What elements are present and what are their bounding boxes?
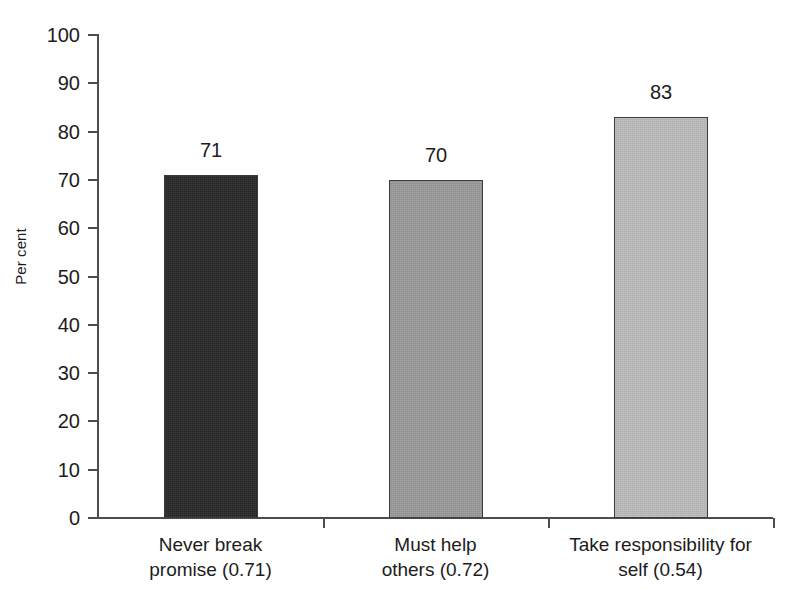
x-category-label-line: promise (0.71) [98, 557, 323, 582]
y-axis-line [97, 34, 99, 519]
y-tick-label: 0 [34, 508, 80, 528]
x-category-label: Must helpothers (0.72) [323, 532, 548, 582]
y-tick-label: 30 [34, 363, 80, 383]
y-tick-label: 100 [34, 25, 80, 45]
x-category-label-line: Must help [323, 532, 548, 557]
y-tick-label: 40 [34, 315, 80, 335]
y-tick-label: 10 [34, 460, 80, 480]
bar [389, 180, 483, 518]
bar-value-label: 83 [601, 81, 721, 103]
bar-texture [165, 176, 257, 517]
x-category-label-line: self (0.54) [548, 557, 773, 582]
bar-value-label: 71 [151, 139, 271, 161]
x-category-label: Take responsibility forself (0.54) [548, 532, 773, 582]
x-category-label: Never breakpromise (0.71) [98, 532, 323, 582]
bar-value-label: 70 [376, 144, 496, 166]
x-category-label-line: Never break [98, 532, 323, 557]
bar-texture [615, 118, 707, 517]
y-tick-label: 50 [34, 267, 80, 287]
y-tick-label: 90 [34, 73, 80, 93]
x-tick-mark [323, 518, 325, 528]
y-tick-label: 70 [34, 170, 80, 190]
y-tick-label: 20 [34, 411, 80, 431]
bar [614, 117, 708, 518]
x-tick-mark [773, 518, 775, 528]
bar-texture [390, 181, 482, 517]
x-category-label-line: others (0.72) [323, 557, 548, 582]
y-axis-title: Per cent [12, 207, 29, 307]
x-tick-mark [548, 518, 550, 528]
y-tick-label: 80 [34, 122, 80, 142]
x-category-label-line: Take responsibility for [548, 532, 773, 557]
bar-chart: Per cent 1009080706050403020100 717083 N… [0, 0, 789, 589]
y-tick-label: 60 [34, 218, 80, 238]
bar [164, 175, 258, 518]
